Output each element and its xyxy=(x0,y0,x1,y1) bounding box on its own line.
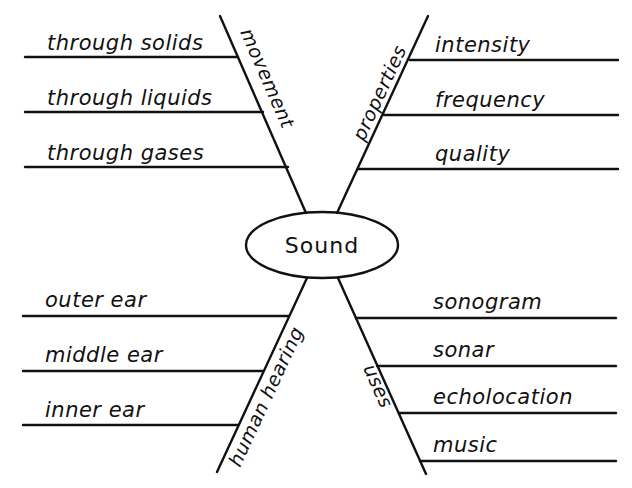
movement-item-2: through liquids xyxy=(47,86,213,110)
movement-item-1: through solids xyxy=(47,31,203,55)
movement-category-label: movement xyxy=(236,25,299,133)
human-hearing-item-2: middle ear xyxy=(45,343,164,367)
uses-category-label: uses xyxy=(359,361,398,412)
movement-item-3: through gases xyxy=(47,141,204,165)
human-hearing-item-1: outer ear xyxy=(45,288,147,312)
properties-item-2: frequency xyxy=(435,88,545,112)
properties-category-label: properties xyxy=(347,42,410,145)
properties-item-1: intensity xyxy=(435,33,531,57)
uses-item-1: sonogram xyxy=(433,290,542,314)
uses-item-2: sonar xyxy=(433,338,495,362)
human-hearing-category-label: human hearing xyxy=(224,323,308,470)
human-hearing-item-3: inner ear xyxy=(45,398,145,422)
sound-concept-diagram: through solids through liquids through g… xyxy=(0,0,632,488)
properties-item-3: quality xyxy=(435,142,510,166)
human-hearing-spine xyxy=(217,278,307,472)
branch-uses: sonogram sonar echolocation music uses xyxy=(338,278,616,474)
branch-properties: intensity frequency quality properties xyxy=(337,16,618,213)
branch-movement: through solids through liquids through g… xyxy=(25,16,306,213)
center-label: Sound xyxy=(285,233,359,258)
uses-item-3: echolocation xyxy=(433,385,573,409)
center-node: Sound xyxy=(246,212,398,278)
branch-human-hearing: outer ear middle ear inner ear human hea… xyxy=(23,278,307,472)
uses-item-4: music xyxy=(433,433,498,457)
